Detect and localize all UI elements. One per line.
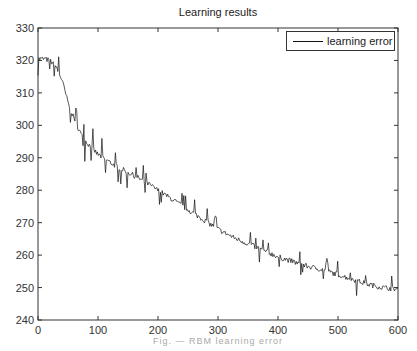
y-tick-label: 240 [16,314,34,326]
x-tick-label: 200 [149,324,167,336]
y-tick-label: 310 [16,87,34,99]
y-tick-label: 290 [16,152,34,164]
plot-frame [38,28,398,320]
x-tick-label: 500 [329,324,347,336]
x-tick-label: 100 [89,324,107,336]
x-tick-label: 400 [269,324,287,336]
y-tick-label: 270 [16,217,34,229]
chart-series [38,57,398,296]
x-tick-label: 0 [35,324,41,336]
x-tick-label: 300 [209,324,227,336]
y-tick-label: 330 [16,22,34,34]
y-tick-label: 260 [16,249,34,261]
y-tick-label: 300 [16,119,34,131]
figure-caption: Fig. — RBM learning error [38,336,398,346]
legend-label: learning error [327,35,392,47]
y-tick-label: 320 [16,54,34,66]
y-tick-label: 250 [16,282,34,294]
x-tick-label: 600 [389,324,407,336]
chart-plot: 0100200300400500600240250260270280290300… [0,0,417,351]
chart-legend: learning error [286,31,395,51]
y-tick-label: 280 [16,184,34,196]
legend-line-swatch [293,41,323,42]
learning-error-line [38,57,398,296]
chart-axes: 0100200300400500600240250260270280290300… [16,22,408,336]
